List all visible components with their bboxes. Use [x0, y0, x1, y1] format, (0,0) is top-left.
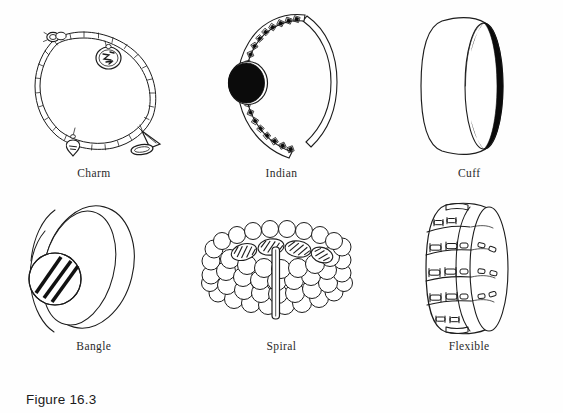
bangle-bracelet-illustration [9, 197, 179, 342]
figure-item-charm: Charm [0, 0, 188, 195]
cuff-bracelet-illustration [394, 6, 544, 166]
charm-bracelet-illustration [9, 6, 179, 166]
figure-item-flexible: Flexible [375, 195, 563, 390]
indian-bracelet-illustration [201, 6, 361, 166]
flexible-bracelet-illustration [394, 197, 544, 342]
figure-page: Charm [0, 0, 563, 413]
indian-center-stone [229, 62, 268, 105]
figure-label-charm: Charm [0, 168, 188, 180]
figure-label-spiral: Spiral [188, 341, 376, 353]
spiral-spacer-bar [272, 247, 280, 319]
figure-item-spiral: Spiral [188, 195, 376, 390]
figure-caption: Figure 16.3 [26, 392, 97, 407]
cuff-band [421, 18, 503, 155]
figure-label-bangle: Bangle [0, 341, 188, 353]
figure-label-cuff: Cuff [375, 168, 563, 180]
figure-label-indian: Indian [188, 168, 376, 180]
figure-item-cuff: Cuff [375, 0, 563, 195]
figure-item-bangle: Bangle [0, 195, 188, 390]
figure-label-flexible: Flexible [375, 341, 563, 353]
spiral-beads [202, 221, 353, 320]
bracelet-grid: Charm [0, 0, 563, 390]
figure-item-indian: Indian [188, 0, 376, 195]
spiral-bracelet-illustration [196, 197, 366, 342]
bangle-medallion [29, 253, 81, 305]
